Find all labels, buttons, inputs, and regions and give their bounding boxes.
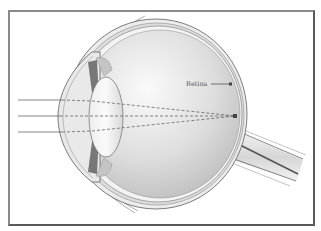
light-rays-incoming — [18, 100, 62, 132]
retina-label: Retina — [186, 80, 208, 88]
eye-diagram: Retina — [0, 0, 321, 231]
focal-point — [233, 114, 237, 118]
lens — [89, 77, 123, 157]
